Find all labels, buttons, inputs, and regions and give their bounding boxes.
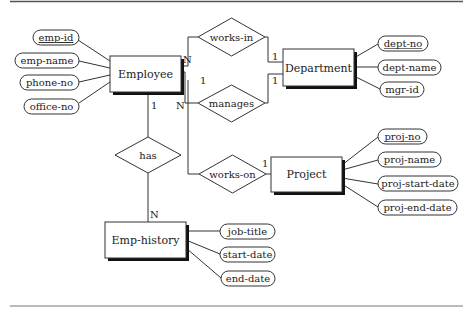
attribute-office-no[interactable]: office-no (24, 99, 79, 114)
attribute-label: start-date (223, 249, 273, 260)
attribute-dept-name[interactable]: dept-name (378, 60, 441, 75)
relationship-works-in[interactable]: works-in (198, 18, 265, 56)
entity-label: Project (287, 168, 327, 181)
entity-department[interactable]: Department (283, 49, 357, 89)
attribute-label: end-date (226, 273, 271, 284)
attribute-label: proj-name (384, 154, 436, 165)
attribute-label: phone-no (26, 77, 73, 88)
attribute-label: emp-name (21, 55, 74, 66)
entity-label: Department (285, 62, 353, 75)
relationship-manages[interactable]: manages (198, 85, 265, 122)
attribute-label: proj-no (384, 131, 420, 142)
relationship-label: manages (209, 98, 254, 109)
attribute-emp-name[interactable]: emp-name (15, 53, 79, 68)
cardinality-project-works-on: 1 (262, 158, 268, 169)
attribute-end-date[interactable]: end-date (221, 271, 275, 286)
attribute-proj-start-date[interactable]: proj-start-date (378, 176, 458, 191)
attribute-job-title[interactable]: job-title (220, 224, 275, 239)
cardinality-employee-manages: 1 (200, 75, 206, 86)
cardinality-employee-works-on: N (176, 100, 185, 111)
attribute-mgr-id[interactable]: mgr-id (380, 82, 424, 97)
attribute-label: dept-name (383, 62, 437, 73)
relationship-has[interactable]: has (115, 137, 181, 173)
attribute-label: emp-id (39, 32, 74, 43)
entity-label: Emp-history (112, 234, 181, 247)
relationship-works-on[interactable]: works-on (199, 155, 266, 193)
entity-emp-history[interactable]: Emp-history (105, 222, 189, 261)
attribute-label: proj-end-date (383, 202, 451, 213)
attribute-label: dept-no (384, 38, 423, 49)
attribute-start-date[interactable]: start-date (220, 247, 275, 262)
entity-label: Employee (118, 68, 173, 81)
attribute-label: proj-start-date (381, 178, 454, 189)
attribute-dept-no[interactable]: dept-no (378, 36, 428, 51)
attribute-label: office-no (30, 101, 74, 112)
attribute-proj-end-date[interactable]: proj-end-date (378, 200, 457, 215)
cardinality-employee-works-in: N (183, 54, 192, 65)
attribute-proj-no[interactable]: proj-no (378, 129, 427, 144)
attribute-label: job-title (227, 226, 267, 237)
attribute-emp-id[interactable]: emp-id (33, 30, 79, 45)
cardinality-emp-history-has: N (150, 209, 159, 220)
attribute-phone-no[interactable]: phone-no (20, 75, 79, 90)
cardinality-department-manages: 1 (272, 75, 278, 86)
er-diagram: Employee Department Project Emp-history … (0, 0, 473, 311)
entity-project[interactable]: Project (271, 157, 345, 195)
cardinality-employee-has: 1 (151, 100, 157, 111)
relationship-label: works-on (209, 169, 256, 180)
cardinality-department-works-in: 1 (272, 51, 278, 62)
relationship-label: works-in (210, 32, 254, 43)
entity-employee[interactable]: Employee (110, 56, 184, 95)
relationship-label: has (139, 150, 157, 161)
attribute-label: mgr-id (385, 84, 419, 95)
attribute-proj-name[interactable]: proj-name (378, 152, 441, 167)
